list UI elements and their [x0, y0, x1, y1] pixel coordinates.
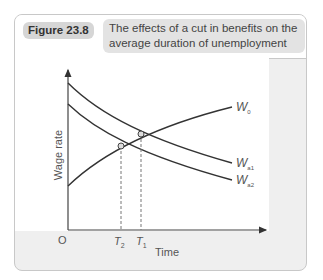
origin-label: O — [58, 234, 67, 246]
y-axis-label: Wage rate — [52, 130, 64, 180]
curve-w0 — [68, 107, 232, 186]
wage-duration-diagram: W0 Wa1 Wa2 Wage rate Time O T2 T1 — [0, 0, 323, 280]
equilibrium-point-2 — [118, 143, 124, 149]
label-w0: W0 — [236, 100, 251, 115]
tick-t1: T1 — [136, 235, 147, 249]
label-wa1: Wa1 — [236, 156, 255, 171]
tick-t2: T2 — [114, 235, 125, 249]
curve-wa2 — [68, 104, 232, 180]
x-axis-label: Time — [155, 246, 179, 258]
label-wa2: Wa2 — [236, 173, 255, 188]
equilibrium-point-1 — [138, 131, 144, 137]
